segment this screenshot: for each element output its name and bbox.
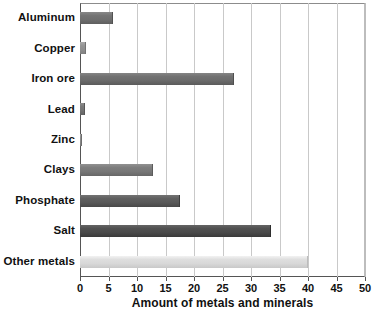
tick-label-10: 10 [124, 282, 150, 294]
tick-mark [251, 277, 252, 281]
bar-row [80, 64, 365, 94]
bar-row [80, 94, 365, 124]
bar-row [80, 3, 365, 33]
tick-mark [223, 277, 224, 281]
tick-mark [337, 277, 338, 281]
tick-mark [194, 277, 195, 281]
category-label-zinc: Zinc [0, 133, 75, 145]
bar-row [80, 216, 365, 246]
bar-salt [80, 225, 271, 237]
tick-mark [137, 277, 138, 281]
tick-label-20: 20 [181, 282, 207, 294]
tick-label-45: 45 [324, 282, 350, 294]
tick-label-25: 25 [210, 282, 236, 294]
bar-clays [80, 164, 153, 176]
category-label-lead: Lead [0, 103, 75, 115]
bar-lead [80, 103, 85, 115]
tick-label-50: 50 [352, 282, 374, 294]
bar-iron-ore [80, 73, 234, 85]
x-axis-title: Amount of metals and minerals [80, 296, 365, 310]
tick-mark [166, 277, 167, 281]
tick-label-30: 30 [238, 282, 264, 294]
bar-chart: AluminumCopperIron oreLeadZincClaysPhosp… [0, 0, 374, 315]
bar-row [80, 247, 365, 277]
gridline [365, 3, 366, 277]
category-label-aluminum: Aluminum [0, 11, 75, 23]
bar-row [80, 155, 365, 185]
tick-mark [308, 277, 309, 281]
category-label-clays: Clays [0, 163, 75, 175]
tick-label-40: 40 [295, 282, 321, 294]
tick-label-5: 5 [96, 282, 122, 294]
category-label-iron-ore: Iron ore [0, 72, 75, 84]
bar-row [80, 125, 365, 155]
tick-label-0: 0 [67, 282, 93, 294]
category-label-salt: Salt [0, 224, 75, 236]
tick-mark [109, 277, 110, 281]
bar-copper [80, 42, 86, 54]
bar-aluminum [80, 12, 113, 24]
bar-row [80, 33, 365, 63]
category-label-phosphate: Phosphate [0, 194, 75, 206]
bar-zinc [80, 134, 82, 146]
category-label-other-metals: Other metals [0, 255, 75, 267]
bar-other-metals [80, 256, 308, 268]
bar-row [80, 186, 365, 216]
bar-phosphate [80, 195, 180, 207]
category-label-copper: Copper [0, 42, 75, 54]
tick-label-15: 15 [153, 282, 179, 294]
tick-mark [80, 277, 81, 281]
tick-mark [280, 277, 281, 281]
tick-mark [365, 277, 366, 281]
tick-label-35: 35 [267, 282, 293, 294]
